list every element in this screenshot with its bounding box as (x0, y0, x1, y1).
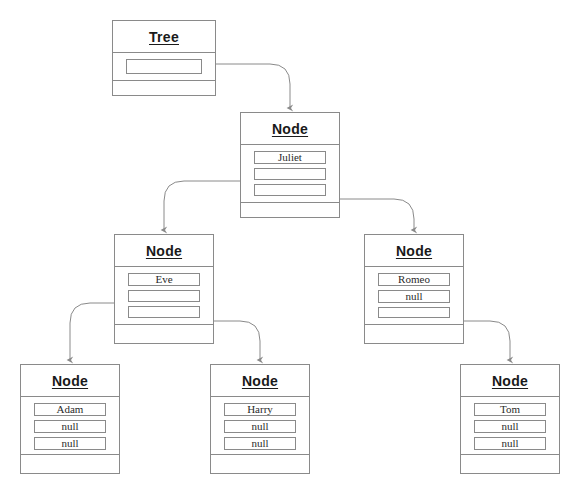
pointer-field[interactable] (128, 290, 200, 302)
object-title-band: Node (241, 113, 339, 145)
connector-tree-to-juliet (216, 64, 290, 108)
object-title-band: Node (21, 365, 119, 397)
object-fields (113, 53, 215, 81)
object-footer-compartment (115, 325, 213, 343)
field-text: null (501, 438, 518, 449)
field-text: null (61, 438, 78, 449)
pointer-field[interactable] (128, 306, 200, 318)
object-footer-compartment (241, 203, 339, 217)
connector-juliet-to-eve (164, 181, 240, 230)
object-title-band: Node (365, 235, 463, 267)
value-field[interactable]: Harry (224, 403, 296, 416)
object-title: Node (242, 373, 278, 389)
connector-romeo-to-tom (464, 321, 510, 360)
field-text: null (251, 421, 268, 432)
object-fields: Adamnullnull (21, 397, 119, 455)
connector-juliet-to-romeo (340, 199, 414, 230)
connector-eve-to-harry (214, 321, 260, 360)
object-box-node-eve[interactable]: NodeEve (114, 234, 214, 344)
field-text: Juliet (278, 152, 302, 163)
pointer-field[interactable] (378, 307, 450, 318)
value-field[interactable]: null (34, 420, 106, 433)
value-field[interactable]: Tom (474, 403, 546, 416)
object-title: Node (396, 243, 432, 259)
field-text: Harry (247, 404, 273, 415)
object-box-node-romeo[interactable]: NodeRomeonull (364, 234, 464, 344)
object-title: Node (146, 243, 182, 259)
object-box-node-juliet[interactable]: NodeJuliet (240, 112, 340, 218)
object-box-node-harry[interactable]: NodeHarrynullnull (210, 364, 310, 474)
object-footer-compartment (365, 325, 463, 343)
value-field[interactable]: Eve (128, 273, 200, 286)
pointer-field[interactable] (126, 59, 202, 74)
object-diagram-canvas: TreeNodeJulietNodeEveNodeRomeonullNodeAd… (0, 0, 578, 492)
field-text: Adam (57, 404, 84, 415)
object-title-band: Tree (113, 21, 215, 53)
object-title-band: Node (115, 235, 213, 267)
object-fields: Romeonull (365, 267, 463, 325)
field-text: Tom (500, 404, 520, 415)
object-title: Node (52, 373, 88, 389)
object-box-node-tom[interactable]: NodeTomnullnull (460, 364, 560, 474)
object-title: Node (272, 121, 308, 137)
field-text: null (61, 421, 78, 432)
pointer-field[interactable] (254, 168, 326, 180)
object-footer-compartment (211, 455, 309, 473)
object-footer-compartment (113, 81, 215, 95)
value-field[interactable]: Adam (34, 403, 106, 416)
object-fields: Harrynullnull (211, 397, 309, 455)
connector-eve-to-adam (70, 303, 114, 360)
value-field[interactable]: null (224, 437, 296, 450)
value-field[interactable]: null (34, 437, 106, 450)
object-footer-compartment (461, 455, 559, 473)
value-field[interactable]: null (224, 420, 296, 433)
field-text: null (405, 291, 422, 302)
value-field[interactable]: Juliet (254, 151, 326, 164)
object-title: Tree (149, 29, 179, 45)
object-box-node-adam[interactable]: NodeAdamnullnull (20, 364, 120, 474)
object-box-tree-root[interactable]: Tree (112, 20, 216, 96)
value-field[interactable]: null (474, 437, 546, 450)
field-text: null (251, 438, 268, 449)
value-field[interactable]: null (474, 420, 546, 433)
object-title-band: Node (211, 365, 309, 397)
object-fields: Eve (115, 267, 213, 325)
object-fields: Juliet (241, 145, 339, 203)
field-text: Romeo (398, 274, 430, 285)
pointer-field[interactable] (254, 184, 326, 196)
object-title: Node (492, 373, 528, 389)
field-text: null (501, 421, 518, 432)
object-title-band: Node (461, 365, 559, 397)
value-field[interactable]: null (378, 290, 450, 303)
object-fields: Tomnullnull (461, 397, 559, 455)
value-field[interactable]: Romeo (378, 273, 450, 286)
field-text: Eve (155, 274, 172, 285)
object-footer-compartment (21, 455, 119, 473)
